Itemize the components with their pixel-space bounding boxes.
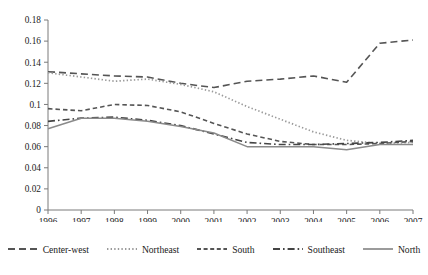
x-tick-label: 2007	[404, 217, 423, 222]
y-tick-label: 0.1	[29, 100, 41, 110]
y-tick-label: 0.02	[25, 184, 42, 194]
x-tick-label: 2003	[271, 217, 290, 222]
dashed-swatch	[8, 244, 38, 254]
y-tick-label: 0.04	[25, 163, 42, 173]
series-line-northeast	[48, 73, 413, 144]
legend-label: Center-west	[43, 244, 89, 255]
legend-item-southeast[interactable]: Southeast	[273, 244, 345, 255]
x-tick-label: 2005	[337, 217, 356, 222]
legend-label: Southeast	[308, 244, 345, 255]
legend-item-center-west[interactable]: Center-west	[8, 244, 89, 255]
series-line-south	[48, 104, 413, 144]
y-tick-label: 0.16	[25, 36, 42, 46]
x-tick-label: 2001	[205, 217, 224, 222]
x-tick-label: 2004	[304, 217, 323, 222]
plot-area: 00.020.040.060.080.10.120.140.160.18 199…	[0, 0, 428, 222]
y-axis-ticks: 00.020.040.060.080.10.120.140.160.18	[25, 15, 48, 215]
dash-dot-swatch	[273, 244, 303, 254]
dotted-swatch	[107, 244, 137, 254]
legend-item-northeast[interactable]: Northeast	[107, 244, 179, 255]
caption-strip	[0, 265, 428, 275]
x-tick-label: 2002	[238, 217, 257, 222]
x-tick-label: 1997	[72, 217, 91, 222]
x-axis-ticks: 1996199719981999200020012002200320042005…	[39, 210, 423, 222]
y-tick-label: 0.06	[25, 142, 42, 152]
legend-item-south[interactable]: South	[197, 244, 254, 255]
chart-legend: Center-westNortheastSouthSoutheastNorth	[0, 240, 428, 258]
x-tick-label: 1996	[39, 217, 58, 222]
y-tick-label: 0.12	[25, 79, 42, 89]
y-tick-label: 0.18	[25, 15, 42, 25]
y-tick-label: 0	[36, 205, 41, 215]
y-tick-label: 0.08	[25, 121, 42, 131]
x-tick-label: 1998	[105, 217, 124, 222]
legend-label: Northeast	[142, 244, 179, 255]
y-tick-label: 0.14	[25, 58, 42, 68]
legend-label: North	[398, 244, 420, 255]
line-chart: 00.020.040.060.080.10.120.140.160.18 199…	[0, 0, 428, 222]
solid-swatch	[363, 244, 393, 254]
x-tick-label: 2006	[371, 217, 390, 222]
short-dashed-swatch	[197, 244, 227, 254]
series-lines	[48, 40, 413, 150]
x-tick-label: 1999	[138, 217, 157, 222]
legend-item-north[interactable]: North	[363, 244, 420, 255]
series-line-north	[48, 118, 413, 150]
figure-container: 00.020.040.060.080.10.120.140.160.18 199…	[0, 0, 428, 275]
x-tick-label: 2000	[171, 217, 190, 222]
legend-label: South	[232, 244, 254, 255]
